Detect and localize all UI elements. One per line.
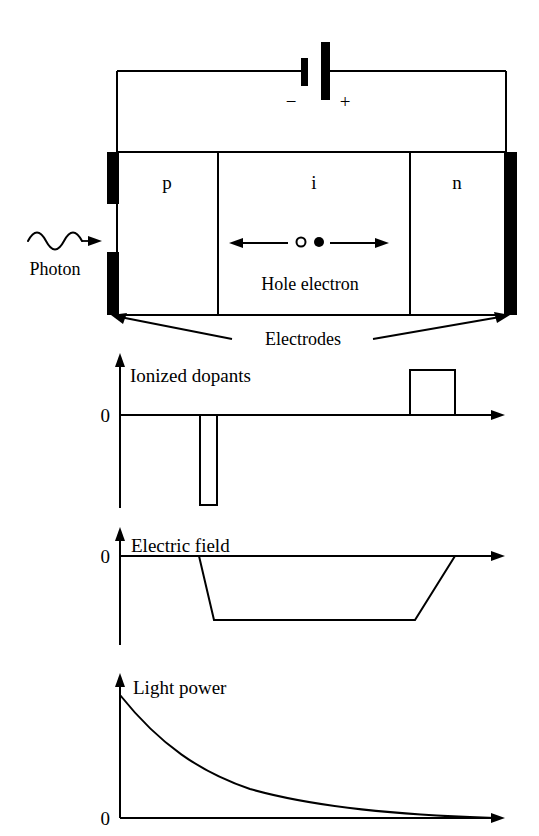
electrodes-leader-left [120, 317, 232, 339]
battery-negative-label: − [286, 91, 297, 112]
light-power-y-arrowhead-icon [115, 673, 125, 687]
region-labels: p i n [162, 172, 462, 193]
region-label-n: n [452, 172, 462, 193]
ionized-dopants-positive-bar [410, 370, 455, 415]
ionized-dopants-x-arrowhead-icon [491, 410, 505, 420]
electrodes-label: Electrodes [265, 329, 341, 349]
region-label-i: i [311, 172, 316, 193]
electrodes-callout: Electrodes [111, 312, 510, 349]
plot-ionized-dopants: Ionized dopants 0 [101, 353, 506, 508]
battery-short-plate-icon [301, 58, 308, 86]
light-power-decay-curve [120, 695, 495, 818]
battery-positive-label: + [340, 91, 351, 112]
carrier-group: Hole electron [229, 237, 389, 294]
electrodes-leader-right [373, 317, 500, 339]
ionized-dopants-negative-bar [200, 415, 217, 505]
photon-arrowhead-icon [88, 236, 102, 246]
photon-label: Photon [29, 259, 80, 279]
electric-field-x-arrowhead-icon [491, 551, 505, 561]
electric-field-axis-label: Electric field [131, 535, 230, 556]
left-electrode-icon [107, 152, 119, 204]
electric-field-y-arrowhead-icon [115, 527, 125, 541]
filled-circle-icon [314, 237, 324, 247]
electron-arrowhead-icon [375, 238, 389, 248]
bias-circuit [117, 71, 506, 152]
plot-electric-field: Electric field 0 [101, 527, 506, 645]
light-power-zero-label: 0 [101, 808, 111, 829]
battery-long-plate-icon [321, 42, 330, 100]
figure-canvas: − + p i n [0, 0, 539, 836]
battery-symbol: − + [286, 42, 351, 112]
light-power-axis-label: Light power [133, 677, 227, 698]
carrier-caption: Hole electron [261, 274, 358, 294]
left-electrode-lower-icon [107, 252, 119, 315]
open-circle-icon [297, 238, 306, 247]
wavy-arrow-icon [28, 233, 82, 250]
electric-field-profile [199, 556, 455, 620]
ionized-dopants-y-arrowhead-icon [115, 353, 125, 367]
photon-group: Photon [28, 233, 102, 280]
region-label-p: p [162, 172, 172, 193]
plot-light-power: Light power 0 [101, 673, 506, 829]
hole-arrowhead-icon [229, 238, 243, 248]
electric-field-zero-label: 0 [101, 546, 111, 567]
right-electrode-icon [504, 152, 517, 315]
ionized-dopants-axis-label: Ionized dopants [130, 365, 251, 386]
ionized-dopants-zero-label: 0 [101, 405, 111, 426]
